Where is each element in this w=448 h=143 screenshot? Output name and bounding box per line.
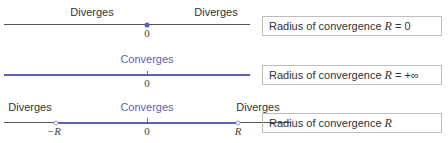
diverges-left-label: Diverges: [8, 101, 51, 113]
box-prefix: Radius of convergence: [269, 20, 385, 32]
box-suffix: = 0: [392, 20, 411, 32]
tick-neg-r-text: −R: [47, 125, 61, 137]
tick-pos-r: R: [235, 125, 242, 137]
box-suffix: = +∞: [392, 69, 419, 81]
box-prefix: Radius of convergence: [269, 117, 385, 129]
row-radius-infinite: Converges 0 Radius of convergence R = +∞: [0, 46, 448, 92]
box-var: R: [385, 68, 392, 82]
tick-zero: 0: [144, 125, 150, 137]
tick-zero: 0: [144, 77, 150, 89]
zero-tick-mark: [147, 118, 148, 122]
box-var: R: [385, 19, 392, 33]
box-prefix: Radius of convergence: [269, 69, 385, 81]
zero-tick-mark: [147, 71, 148, 75]
tick-neg-r: −R: [47, 125, 61, 137]
radius-box: Radius of convergence R: [262, 113, 442, 133]
converges-label: Converges: [120, 101, 173, 113]
number-line: [4, 24, 250, 25]
radius-box: Radius of convergence R = +∞: [262, 65, 442, 85]
row-radius-zero: Diverges Diverges 0 Radius of convergenc…: [0, 0, 448, 46]
number-line-converges: [4, 74, 250, 76]
row-radius-finite: Diverges Converges Diverges −R 0 R Radiu…: [0, 95, 448, 141]
box-var: R: [385, 116, 392, 130]
converges-label: Converges: [120, 53, 173, 65]
tick-pos-r-text: R: [235, 125, 242, 137]
diverges-right-label: Diverges: [194, 6, 237, 18]
number-line-left: [4, 122, 56, 123]
tick-zero: 0: [144, 27, 150, 39]
diverges-left-label: Diverges: [70, 6, 113, 18]
diverges-right-label: Diverges: [236, 101, 279, 113]
radius-box: Radius of convergence R = 0: [262, 16, 442, 36]
